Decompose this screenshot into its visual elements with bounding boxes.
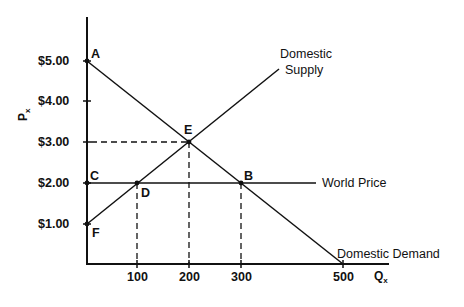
y-tick-label-3: $3.00 [38, 136, 69, 149]
point-d [135, 181, 140, 186]
point-label-f: F [92, 227, 100, 240]
supply-label-line2: Supply [285, 64, 323, 77]
y-tick-label-1: $1.00 [38, 218, 69, 231]
point-label-e: E [184, 124, 192, 137]
domestic-demand-line [87, 61, 343, 264]
point-label-b: B [244, 170, 253, 183]
y-tick-label-2: $2.00 [38, 177, 69, 190]
x-tick-label-200: 200 [179, 271, 200, 284]
world-price-label: World Price [322, 177, 386, 190]
point-e [187, 140, 192, 145]
domestic-supply-line [87, 69, 279, 224]
point-label-c: C [90, 170, 99, 183]
y-axis-title: Px [17, 108, 32, 120]
supply-label-line1: Domestic [280, 48, 332, 61]
y-tick-label-5: $5.00 [38, 55, 69, 68]
y-tick-label-4: $4.00 [38, 95, 69, 108]
point-label-d: D [141, 187, 150, 200]
x-tick-label-100: 100 [127, 271, 148, 284]
point-f [85, 222, 90, 227]
point-b [239, 181, 244, 186]
point-label-a: A [91, 48, 100, 61]
x-tick-label-500: 500 [333, 271, 354, 284]
domestic-demand-label: Domestic Demand [337, 248, 440, 261]
point-a [85, 59, 90, 64]
x-tick-label-300: 300 [231, 271, 252, 284]
point-c [85, 181, 90, 186]
x-axis-title: Qx [374, 270, 388, 285]
